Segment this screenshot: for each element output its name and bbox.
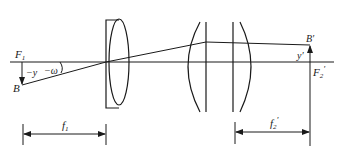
- lens-1: [106, 19, 129, 108]
- label-B: B: [13, 82, 20, 94]
- label-F1: F1: [14, 48, 25, 62]
- label-minus-y: −y: [26, 67, 38, 78]
- lens-group-2: [188, 22, 251, 112]
- chief-ray-image-segment: [106, 42, 310, 62]
- omega-angle-arc: [60, 62, 62, 73]
- label-f2-prime: f2′: [270, 115, 280, 131]
- label-f1: f1: [62, 119, 69, 133]
- label-y-prime: y′: [296, 50, 304, 61]
- label-B-prime: B′: [306, 33, 315, 44]
- label-minus-omega: −ω: [44, 65, 58, 76]
- label-F2-prime: F2′: [312, 64, 326, 80]
- optical-diagram: F1 B −y −ω B′ y′ F2′ f1 f2′: [0, 0, 353, 158]
